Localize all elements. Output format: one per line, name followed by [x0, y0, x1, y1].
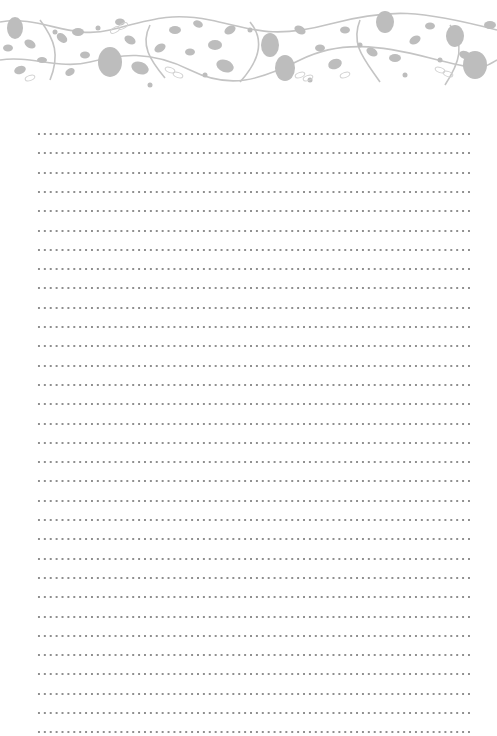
dotted-writing-line [36, 268, 473, 270]
dotted-writing-line [36, 133, 473, 135]
dotted-writing-line [36, 210, 473, 212]
dotted-writing-line [36, 249, 473, 251]
dotted-writing-line [36, 731, 473, 733]
dotted-writing-line [36, 616, 473, 618]
dotted-writing-line [36, 442, 473, 444]
dotted-writing-line [36, 365, 473, 367]
dotted-writing-line [36, 538, 473, 540]
dotted-writing-line [36, 596, 473, 598]
dotted-writing-line [36, 461, 473, 463]
dotted-writing-line [36, 519, 473, 521]
dotted-writing-line [36, 558, 473, 560]
dotted-writing-line [36, 384, 473, 386]
dotted-writing-line [36, 500, 473, 502]
dotted-writing-line [36, 172, 473, 174]
dotted-writing-line [36, 230, 473, 232]
dotted-writing-line [36, 693, 473, 695]
dotted-writing-line [36, 326, 473, 328]
dotted-writing-line [36, 345, 473, 347]
dotted-writing-line [36, 423, 473, 425]
dotted-writing-line [36, 673, 473, 675]
dotted-writing-line [36, 287, 473, 289]
dotted-writing-line [36, 191, 473, 193]
writing-lines-area [36, 0, 473, 736]
dotted-writing-line [36, 307, 473, 309]
dotted-writing-line [36, 654, 473, 656]
dotted-writing-line [36, 635, 473, 637]
dotted-writing-line [36, 577, 473, 579]
dotted-writing-line [36, 480, 473, 482]
dotted-writing-line [36, 403, 473, 405]
dotted-writing-line [36, 152, 473, 154]
dotted-writing-line [36, 712, 473, 714]
